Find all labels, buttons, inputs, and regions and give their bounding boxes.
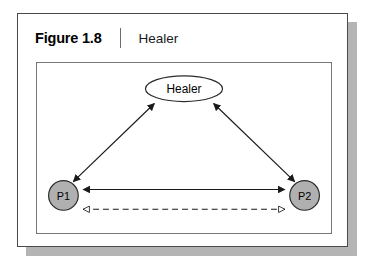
node-p2: P2: [290, 181, 320, 211]
figure-title: Healer: [139, 31, 179, 46]
node-p1: P1: [49, 181, 79, 211]
relationship-diagram: Healer P1 P2: [37, 63, 331, 233]
node-p1-label: P1: [57, 190, 70, 202]
figure-header: Figure 1.8 Healer: [18, 14, 347, 62]
diagram-panel: Healer P1 P2: [36, 62, 332, 234]
node-healer-label: Healer: [167, 82, 202, 96]
figure-card: Figure 1.8 Healer: [17, 13, 348, 247]
node-p2-label: P2: [298, 190, 311, 202]
figure-number: Figure 1.8: [35, 30, 102, 46]
header-separator-rule: [120, 28, 121, 48]
edge-p2-healer: [214, 104, 295, 182]
edge-p1-healer: [73, 104, 154, 182]
node-healer: Healer: [145, 76, 222, 102]
